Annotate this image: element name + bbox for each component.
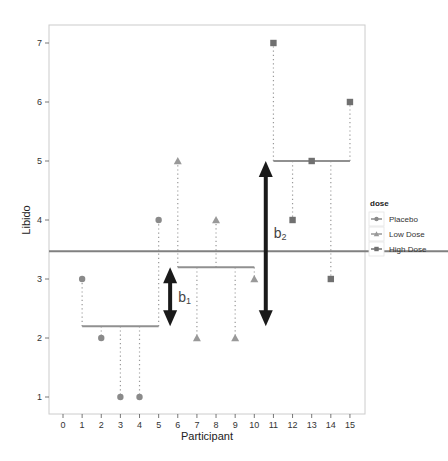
chart: b1b2 1234567 0123456789101112131415 Part…	[0, 0, 448, 461]
x-tick-label: 4	[137, 420, 142, 430]
x-tick-label: 3	[118, 420, 123, 430]
x-tick-label: 1	[80, 420, 85, 430]
y-tick-label: 3	[37, 274, 42, 284]
legend-label: Low Dose	[389, 230, 425, 239]
y-axis: 1234567	[37, 38, 49, 402]
x-axis: 0123456789101112131415	[60, 414, 354, 430]
data-point	[136, 394, 142, 400]
y-axis-title: Libido	[20, 205, 32, 234]
data-point	[270, 40, 276, 46]
y-tick-label: 6	[37, 97, 42, 107]
data-point	[98, 335, 104, 341]
x-tick-label: 14	[326, 420, 336, 430]
circle-icon	[374, 217, 378, 221]
x-tick-label: 5	[156, 420, 161, 430]
annotation-subscript: 2	[282, 232, 287, 242]
x-axis-title: Participant	[181, 430, 233, 442]
y-tick-label: 5	[37, 156, 42, 166]
legend-label: High Dose	[389, 245, 427, 254]
x-tick-label: 9	[233, 420, 238, 430]
square-icon	[374, 247, 378, 251]
legend-label: Placebo	[389, 215, 418, 224]
y-tick-label: 7	[37, 38, 42, 48]
x-tick-label: 11	[269, 420, 278, 430]
x-tick-label: 6	[175, 420, 180, 430]
x-tick-label: 10	[249, 420, 259, 430]
x-tick-label: 13	[307, 420, 317, 430]
data-point	[155, 217, 161, 223]
x-tick-label: 2	[99, 420, 104, 430]
data-point	[308, 158, 314, 164]
legend-title: dose	[370, 199, 389, 208]
annotation-subscript: 1	[186, 296, 191, 306]
y-tick-label: 2	[37, 333, 42, 343]
legend-item-high-dose: High Dose	[369, 242, 427, 256]
data-point	[347, 99, 353, 105]
legend: dose PlaceboLow DoseHigh Dose	[369, 199, 427, 256]
x-tick-label: 12	[288, 420, 298, 430]
data-point	[328, 276, 334, 282]
y-tick-label: 1	[37, 392, 42, 402]
plot-panel	[49, 25, 365, 414]
legend-item-low-dose: Low Dose	[369, 227, 425, 241]
x-tick-label: 15	[345, 420, 355, 430]
data-point	[289, 217, 295, 223]
y-tick-label: 4	[37, 215, 42, 225]
data-point	[117, 394, 123, 400]
x-tick-label: 0	[60, 420, 65, 430]
x-tick-label: 7	[194, 420, 199, 430]
data-point	[79, 276, 85, 282]
legend-item-placebo: Placebo	[369, 212, 418, 226]
x-tick-label: 8	[214, 420, 219, 430]
